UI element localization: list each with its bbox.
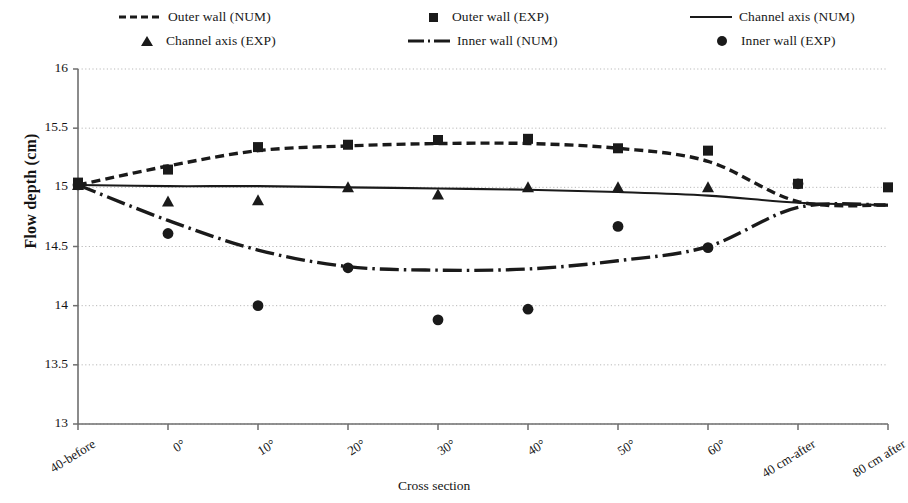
y-tick-label: 14: [24, 297, 68, 313]
gridlines: [78, 69, 888, 424]
series-lines: [78, 143, 888, 270]
axis-ticks: [73, 69, 888, 430]
y-tick-label: 16: [24, 60, 68, 76]
y-tick-label: 13.5: [24, 356, 68, 372]
y-tick-label: 15.5: [24, 119, 68, 135]
y-tick-label: 13: [24, 415, 68, 431]
y-tick-label: 14.5: [24, 238, 68, 254]
series-markers: [72, 134, 893, 325]
y-tick-label: 15: [24, 178, 68, 194]
